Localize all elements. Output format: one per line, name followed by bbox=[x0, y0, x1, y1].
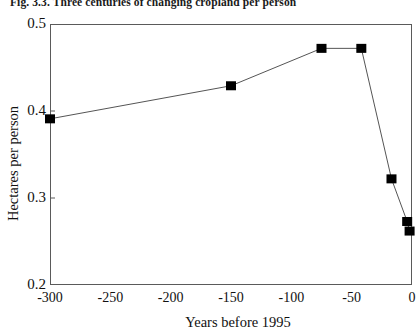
axis-tick-marks bbox=[50, 111, 55, 198]
x-tick-label: -50 bbox=[342, 290, 361, 306]
data-point-marker bbox=[405, 227, 415, 236]
x-axis-title: Years before 1995 bbox=[0, 314, 418, 331]
x-tick-label: 0 bbox=[409, 290, 416, 306]
data-point-marker bbox=[356, 44, 366, 53]
chart-canvas bbox=[0, 0, 418, 336]
y-axis-title: Hectares per person bbox=[5, 89, 22, 239]
data-series-cropland-per-person bbox=[45, 44, 415, 236]
x-tick-label: -300 bbox=[37, 290, 63, 306]
x-tick-label: -150 bbox=[218, 290, 244, 306]
data-point-marker bbox=[402, 217, 412, 226]
series-line bbox=[50, 48, 410, 231]
x-axis-tick-labels: -300-250-200-150-100-500 bbox=[0, 290, 418, 312]
data-point-marker bbox=[386, 174, 396, 183]
x-tick-label: -200 bbox=[158, 290, 184, 306]
x-tick-label: -250 bbox=[97, 290, 123, 306]
data-point-marker bbox=[317, 44, 327, 53]
data-point-marker bbox=[45, 114, 55, 123]
y-tick-label: 0.5 bbox=[2, 15, 46, 32]
x-tick-label: -100 bbox=[278, 290, 304, 306]
data-point-marker bbox=[226, 81, 236, 90]
